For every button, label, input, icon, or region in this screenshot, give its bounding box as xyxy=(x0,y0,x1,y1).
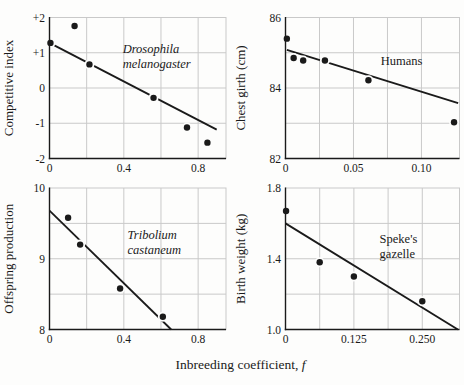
annotation-species-name: Drosophila xyxy=(122,42,180,56)
data-point xyxy=(451,119,457,125)
x-axis-title: Inbreeding coefficient, f xyxy=(0,357,464,373)
panel-humans: 00.050.10868482HumansChest girth (cm) xyxy=(232,3,464,180)
x-tick-label: 0 xyxy=(283,333,289,345)
y-axis-label: Offspring production xyxy=(1,203,16,313)
panel-gazelle: 00.1250.2501.81.41.0Speke'sgazelleBirth … xyxy=(232,180,464,351)
x-tick-label: 0.4 xyxy=(117,162,132,174)
data-point xyxy=(47,40,53,46)
chart-humans: 00.050.10868482HumansChest girth (cm) xyxy=(232,3,464,180)
data-point xyxy=(160,314,166,320)
x-axis-title-text: Inbreeding coefficient, xyxy=(176,357,302,372)
data-point xyxy=(65,215,71,221)
annotation-species-name: melanogaster xyxy=(123,57,191,71)
data-point xyxy=(184,124,190,130)
x-tick-label: 0.10 xyxy=(411,162,431,174)
data-point xyxy=(365,77,371,83)
y-tick-label: 1.4 xyxy=(267,253,282,265)
y-tick-label: -1 xyxy=(35,117,45,129)
y-axis-label: Competitive index xyxy=(1,39,16,136)
x-tick-label: 0.05 xyxy=(343,162,363,174)
y-axis-label: Birth weight (kg) xyxy=(233,214,248,304)
data-point xyxy=(290,55,296,61)
data-point xyxy=(284,35,290,41)
y-tick-label: 84 xyxy=(270,82,282,94)
x-tick-label: 0.8 xyxy=(191,333,206,345)
data-point xyxy=(419,298,425,304)
y-tick-label: +2 xyxy=(33,12,45,24)
trend-line xyxy=(286,223,458,329)
data-point xyxy=(117,285,123,291)
data-point xyxy=(283,208,289,214)
annotation-group-name: Humans xyxy=(381,54,423,68)
panel-row-bottom: 00.40.81098TriboliumcastaneumOffspring p… xyxy=(0,180,464,351)
data-point xyxy=(86,61,92,67)
annotation-group-name: gazelle xyxy=(380,247,416,261)
y-tick-label: 1.8 xyxy=(267,182,282,194)
annotation-species-name: castaneum xyxy=(128,243,181,257)
y-tick-label: +1 xyxy=(33,47,45,59)
y-tick-label: 86 xyxy=(270,12,282,24)
x-axis-title-variable: f xyxy=(302,357,306,372)
x-tick-label: 0.250 xyxy=(409,333,435,345)
y-axis-label: Chest girth (cm) xyxy=(233,45,248,130)
data-point xyxy=(322,57,328,63)
chart-spekes-gazelle: 00.1250.2501.81.41.0Speke'sgazelleBirth … xyxy=(232,180,464,351)
y-tick-label: 82 xyxy=(270,153,282,165)
x-tick-label: 0 xyxy=(47,162,53,174)
annotation-group-name: Speke's xyxy=(380,232,418,246)
y-tick-label: 9 xyxy=(39,253,45,265)
chart-drosophila-melanogaster: 00.40.8+2+10-1-2DrosophilamelanogasterCo… xyxy=(0,3,232,180)
x-tick-label: 0 xyxy=(283,162,289,174)
panel-drosophila: 00.40.8+2+10-1-2DrosophilamelanogasterCo… xyxy=(0,3,232,180)
data-point xyxy=(316,259,322,265)
y-tick-label: 1.0 xyxy=(267,324,282,336)
inbreeding-depression-figure: 00.40.8+2+10-1-2DrosophilamelanogasterCo… xyxy=(0,0,464,385)
x-tick-label: 0 xyxy=(47,333,53,345)
x-tick-label: 0.8 xyxy=(191,162,206,174)
data-point xyxy=(150,95,156,101)
data-point xyxy=(300,57,306,63)
x-tick-label: 0.125 xyxy=(341,333,367,345)
panel-tribolium: 00.40.81098TriboliumcastaneumOffspring p… xyxy=(0,180,232,351)
annotation-species-name: Tribolium xyxy=(128,228,177,242)
chart-tribolium-castaneum: 00.40.81098TriboliumcastaneumOffspring p… xyxy=(0,180,232,351)
data-point xyxy=(77,241,83,247)
y-tick-label: 10 xyxy=(34,182,46,194)
y-tick-label: 0 xyxy=(39,82,45,94)
data-point xyxy=(351,273,357,279)
y-tick-label: 8 xyxy=(39,324,45,336)
data-point xyxy=(204,139,210,145)
data-point xyxy=(71,23,77,29)
x-tick-label: 0.4 xyxy=(117,333,132,345)
y-tick-label: -2 xyxy=(35,153,45,165)
panel-row-top: 00.40.8+2+10-1-2DrosophilamelanogasterCo… xyxy=(0,3,464,180)
trend-line xyxy=(287,50,458,103)
